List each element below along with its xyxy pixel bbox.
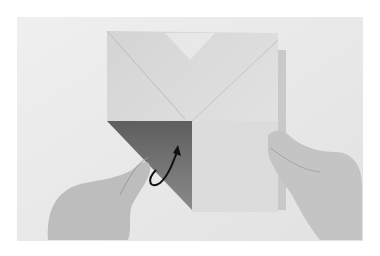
origami-photo: Photograph of hands folding a square of … (17, 17, 363, 241)
